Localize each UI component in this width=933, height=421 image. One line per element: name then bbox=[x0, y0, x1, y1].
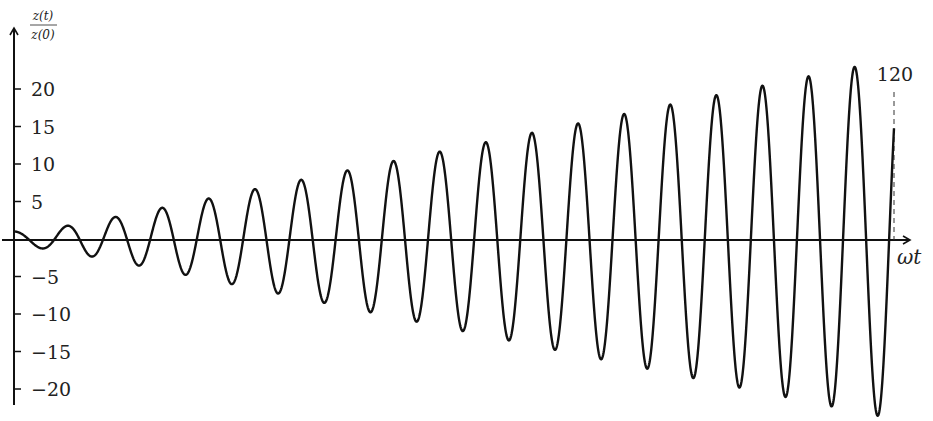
y-tick-label: 15 bbox=[31, 116, 55, 138]
y-axis-label: z(t) z(0) bbox=[30, 9, 57, 42]
y-label-numerator: z(t) bbox=[32, 9, 54, 23]
y-tick-label: −5 bbox=[31, 266, 59, 288]
end-marker-label: 120 bbox=[877, 63, 913, 85]
x-axis-label: ωt bbox=[897, 245, 922, 269]
y-tick-label: −10 bbox=[31, 303, 71, 325]
y-label-denominator: z(0) bbox=[30, 28, 55, 42]
y-tick-label: 5 bbox=[31, 191, 43, 213]
y-tick-label: −20 bbox=[31, 378, 71, 400]
y-tick-label: −15 bbox=[31, 341, 71, 363]
series-curve bbox=[14, 67, 894, 416]
y-tick-label: 20 bbox=[31, 78, 55, 100]
chart-canvas: z(t) z(0) −20−15−10−55101520 120 ωt bbox=[0, 0, 933, 421]
y-tick-label: 10 bbox=[31, 153, 55, 175]
